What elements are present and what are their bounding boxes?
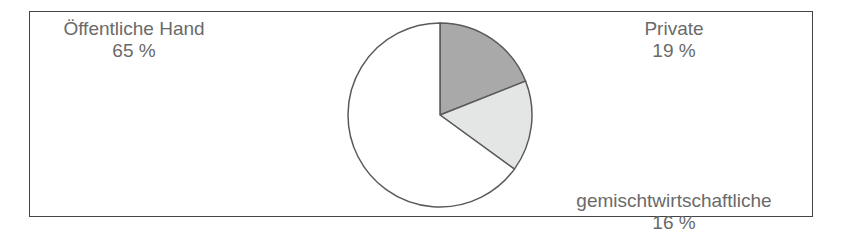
slice-value: 16 % bbox=[548, 212, 800, 230]
slice-label: Öffentliche Hand bbox=[36, 18, 232, 40]
slice-value: 19 % bbox=[614, 40, 734, 62]
slice-label: gemischtwirtschaftliche bbox=[548, 190, 800, 212]
label-private: Private 19 % bbox=[614, 18, 734, 62]
slice-label: Private bbox=[614, 18, 734, 40]
slice-value: 65 % bbox=[36, 40, 232, 62]
label-gemischtwirtschaftliche: gemischtwirtschaftliche 16 % bbox=[548, 190, 800, 230]
label-oeffentliche-hand: Öffentliche Hand 65 % bbox=[36, 18, 232, 62]
